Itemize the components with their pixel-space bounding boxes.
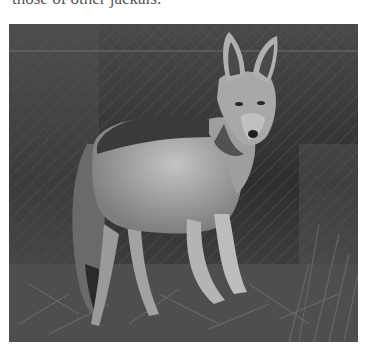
jackal-eye-left xyxy=(235,102,243,106)
jackal-photo xyxy=(9,24,358,342)
jackal-eye-right xyxy=(257,101,265,105)
photo-caption: those of other jackals. xyxy=(12,0,357,9)
jackal-illustration xyxy=(9,24,358,342)
jackal-nose xyxy=(248,130,258,138)
